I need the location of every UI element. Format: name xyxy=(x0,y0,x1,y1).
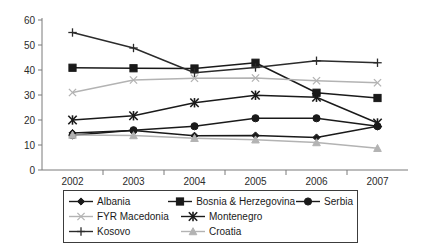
x-tick-label: 2002 xyxy=(61,176,84,187)
legend-label: Bosnia & Herzegovina xyxy=(196,196,295,208)
legend: AlbaniaBosnia & HerzegovinaSerbiaFYR Mac… xyxy=(63,190,358,243)
series-line xyxy=(73,135,378,148)
legend-label: Croatia xyxy=(209,226,241,238)
legend-marker-x-thin-icon xyxy=(68,210,94,223)
legend-row: KosovoCroatia xyxy=(68,224,353,239)
marker-square xyxy=(177,198,184,205)
legend-row: FYR MacedoniaMontenegro xyxy=(68,209,353,224)
series-line xyxy=(73,95,378,123)
series-line xyxy=(73,78,378,93)
legend-marker-plus-icon xyxy=(68,225,94,238)
legend-label: Montenegro xyxy=(209,211,262,223)
marker-circle xyxy=(252,115,259,122)
legend-marker-asterisk-icon xyxy=(180,210,206,223)
series-line xyxy=(73,33,378,73)
x-tick-label: 2005 xyxy=(244,176,267,187)
legend-marker-diamond-icon xyxy=(68,195,94,208)
y-tick-label: 50 xyxy=(24,40,36,51)
line-chart: 0102030405060200220032004200520062007 Al… xyxy=(0,0,423,248)
y-tick-label: 0 xyxy=(29,165,35,176)
marker-circle xyxy=(313,115,320,122)
series-kosovo xyxy=(68,28,381,77)
legend-marker-circle-icon xyxy=(295,195,321,208)
y-tick-label: 20 xyxy=(24,115,36,126)
marker-diamond xyxy=(77,198,84,205)
marker-square xyxy=(374,94,381,101)
series-line xyxy=(73,63,378,98)
series-line xyxy=(73,118,378,135)
legend-item-serbia[interactable]: Serbia xyxy=(295,194,353,209)
marker-circle xyxy=(304,198,311,205)
x-tick-label: 2003 xyxy=(122,176,145,187)
legend-item-bosnia-herzegovina[interactable]: Bosnia & Herzegovina xyxy=(167,194,295,209)
legend-label: Kosovo xyxy=(97,226,130,238)
marker-square xyxy=(69,64,76,71)
legend-label: Albania xyxy=(97,196,130,208)
y-tick-label: 10 xyxy=(24,140,36,151)
x-tick-label: 2007 xyxy=(366,176,389,187)
series-layer xyxy=(68,28,381,151)
marker-square xyxy=(130,65,137,72)
legend-marker-square-icon xyxy=(167,195,193,208)
legend-item-montenegro[interactable]: Montenegro xyxy=(180,209,310,224)
legend-item-fyr-macedonia[interactable]: FYR Macedonia xyxy=(68,209,180,224)
legend-row: AlbaniaBosnia & HerzegovinaSerbia xyxy=(68,194,353,209)
series-fyr-macedonia xyxy=(69,74,381,96)
legend-label: FYR Macedonia xyxy=(97,211,169,223)
legend-item-albania[interactable]: Albania xyxy=(68,194,167,209)
series-bosnia-herzegovina xyxy=(69,59,381,101)
legend-item-croatia[interactable]: Croatia xyxy=(180,224,310,239)
x-tick-label: 2004 xyxy=(183,176,206,187)
marker-circle xyxy=(191,123,198,130)
legend-item-kosovo[interactable]: Kosovo xyxy=(68,224,180,239)
legend-label: Serbia xyxy=(324,196,353,208)
y-tick-label: 40 xyxy=(24,65,36,76)
y-tick-label: 60 xyxy=(24,15,36,26)
x-tick-label: 2006 xyxy=(305,176,328,187)
legend-marker-triangle-icon xyxy=(180,225,206,238)
y-tick-label: 30 xyxy=(24,90,36,101)
